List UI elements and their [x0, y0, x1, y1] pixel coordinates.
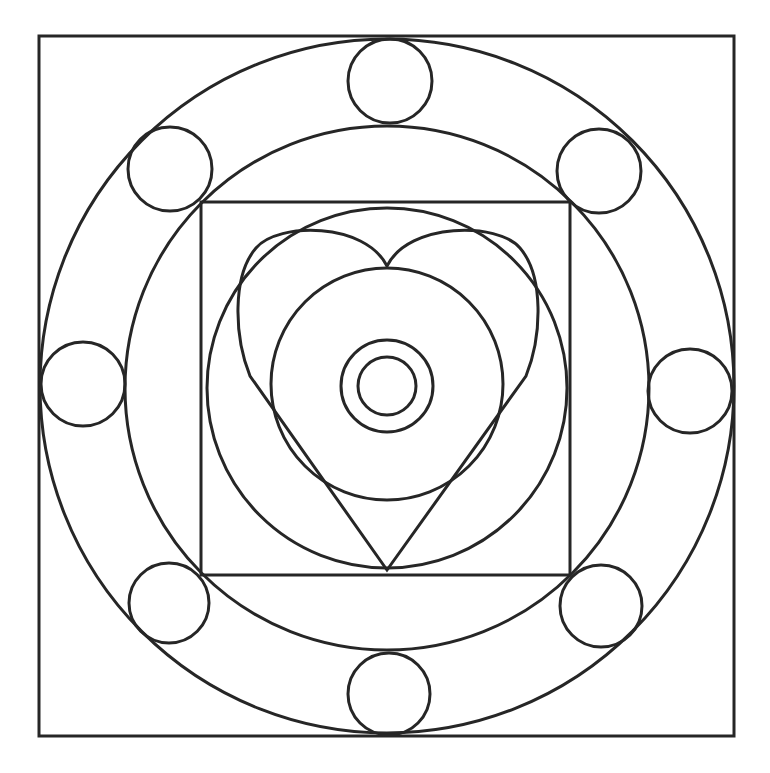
satellite-circle-bottom-left [129, 563, 209, 643]
satellite-circles-group [41, 39, 732, 735]
center-ring-outer [341, 340, 433, 432]
satellite-circle-bottom-right [560, 565, 642, 647]
inner-square-frame [201, 202, 570, 575]
satellite-circle-top [348, 39, 432, 123]
heart-shape [238, 230, 538, 570]
satellite-circle-bottom [348, 653, 430, 735]
satellite-circle-left [41, 342, 125, 426]
satellite-circle-top-left [128, 127, 212, 211]
mandala-canvas: Heart mandala line art [0, 0, 770, 773]
mandala-drawing [0, 0, 770, 773]
center-ring-inner [358, 357, 416, 415]
inner-circle [207, 208, 567, 568]
heart-core-circle [271, 268, 503, 500]
satellite-circle-right [648, 349, 732, 433]
satellite-circle-top-right [557, 129, 641, 213]
